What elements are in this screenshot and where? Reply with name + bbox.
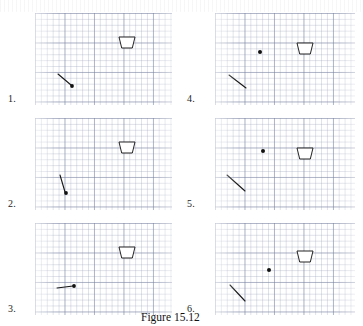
panel-4-diagram	[215, 13, 355, 105]
cup-shape-3	[119, 247, 135, 258]
panel-number-5: 5.	[187, 199, 195, 209]
panel-number-1: 1.	[8, 94, 16, 104]
projectile-dot-2	[64, 191, 68, 195]
panel-number-3: 3.	[8, 304, 16, 314]
projectile-dot-6	[267, 268, 271, 272]
panel-2-diagram	[35, 118, 172, 210]
velocity-vector-2	[60, 175, 65, 192]
grid-panel-2[interactable]	[35, 118, 172, 210]
panel-6-diagram	[215, 223, 355, 315]
cup-shape-1	[119, 37, 135, 48]
velocity-vector-5	[227, 175, 245, 191]
velocity-vector-3	[57, 286, 73, 288]
cup-shape-2	[119, 142, 135, 153]
figure-caption: Figure 15.12	[141, 311, 200, 323]
panel-5-diagram	[215, 118, 355, 210]
grid-panel-6[interactable]	[215, 223, 355, 315]
velocity-vector-6	[230, 285, 245, 301]
projectile-dot-1	[70, 84, 74, 88]
panel-number-4: 4.	[187, 94, 195, 104]
velocity-vector-4	[229, 75, 246, 88]
scan-artifact-band	[0, 0, 363, 12]
velocity-vector-1	[58, 74, 71, 85]
cup-shape-6	[297, 251, 313, 262]
figure-15-12: 1. 2.	[0, 0, 363, 326]
cup-shape-5	[297, 148, 313, 159]
panel-number-2: 2.	[8, 199, 16, 209]
grid-panel-5[interactable]	[215, 118, 355, 210]
grid-panel-3[interactable]	[35, 223, 172, 315]
grid-panel-1[interactable]	[35, 13, 172, 105]
cup-shape-4	[297, 43, 313, 54]
projectile-dot-3	[72, 284, 76, 288]
panel-3-diagram	[35, 223, 172, 315]
grid-panel-4[interactable]	[215, 13, 355, 105]
projectile-dot-5	[261, 149, 265, 153]
projectile-dot-4	[258, 50, 262, 54]
panel-1-diagram	[35, 13, 172, 105]
